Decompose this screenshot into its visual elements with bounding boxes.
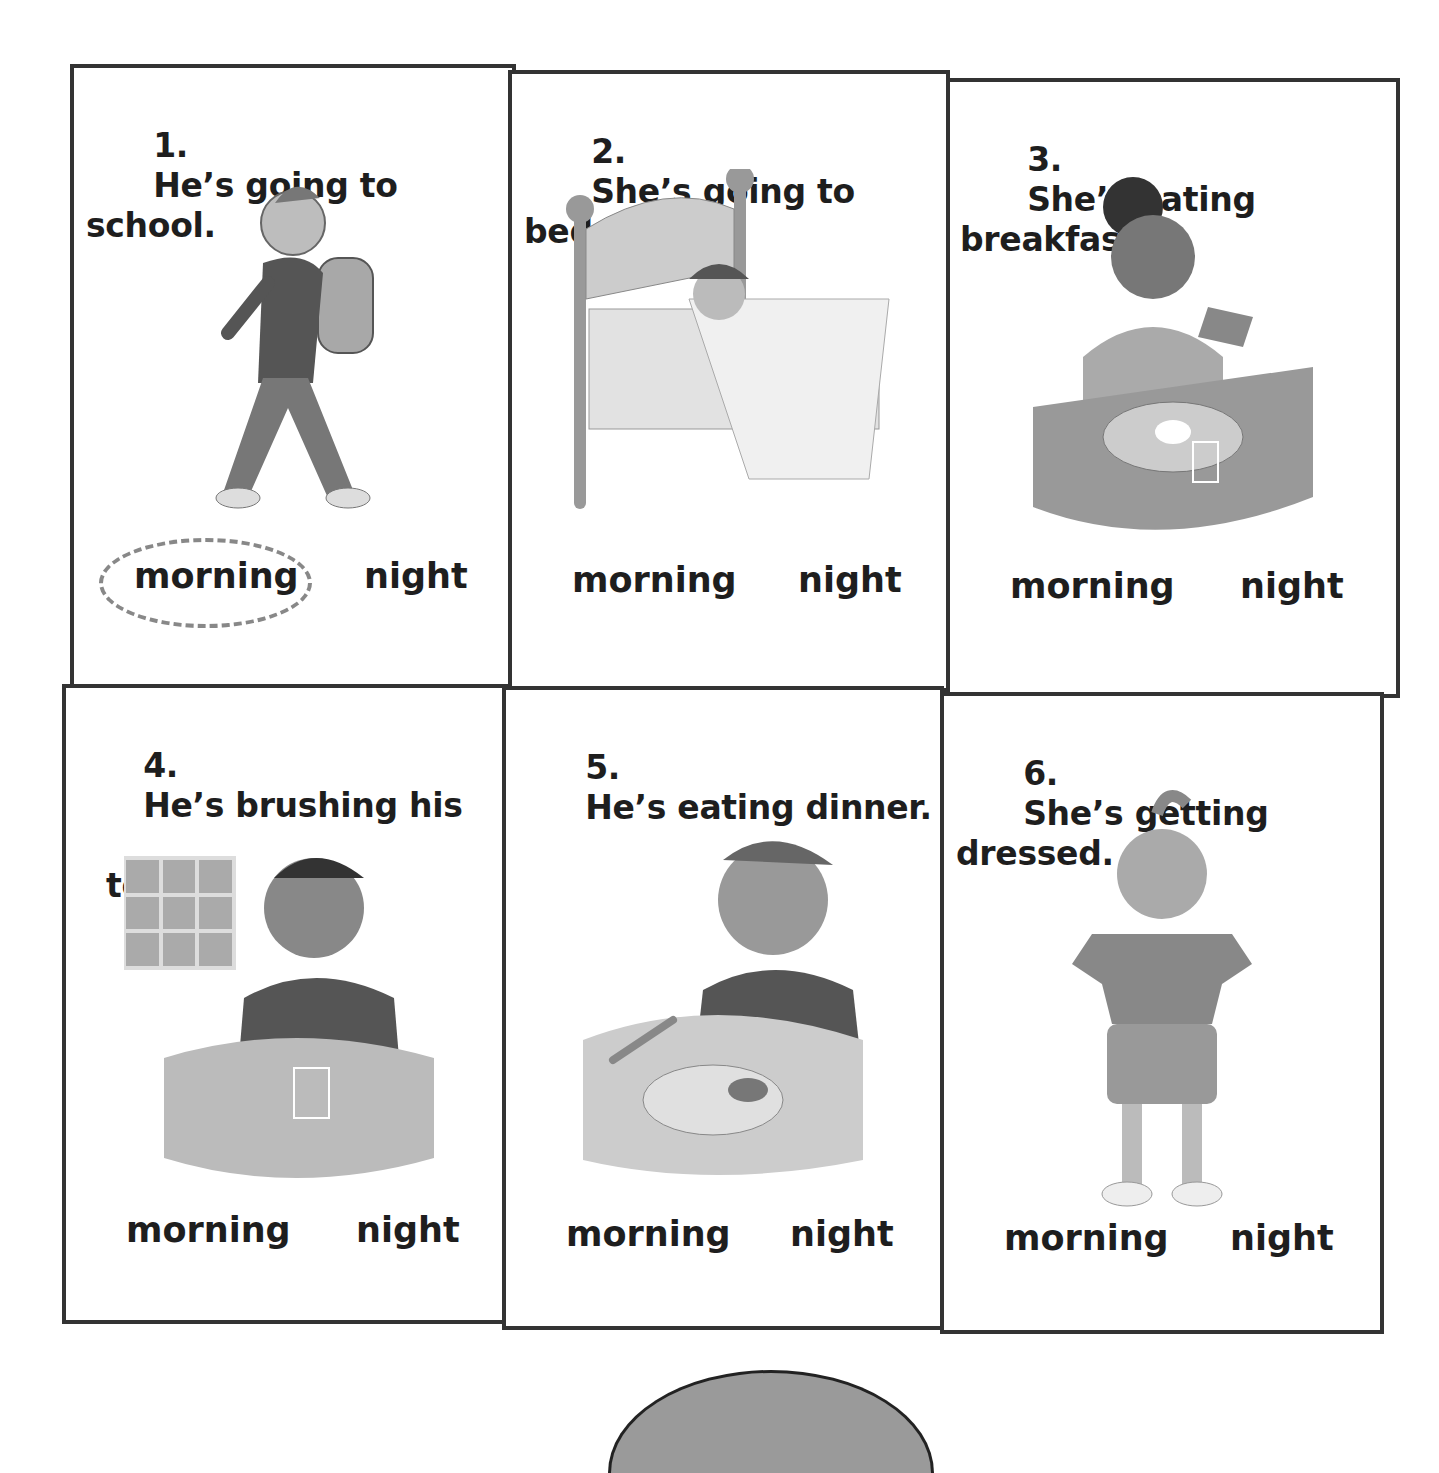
boy-eating-dinner-illustration [563, 820, 883, 1180]
card-number: 1. [153, 126, 188, 165]
option-morning[interactable]: morning [134, 556, 299, 596]
girl-in-bed-illustration [559, 169, 899, 529]
card-number: 3. [1027, 140, 1062, 179]
option-night[interactable]: night [1230, 1218, 1334, 1258]
card-number: 5. [585, 748, 620, 787]
option-night[interactable]: night [356, 1210, 460, 1250]
option-night[interactable]: night [364, 556, 468, 596]
option-morning[interactable]: morning [1010, 566, 1175, 606]
answer-options: morning night [950, 566, 1396, 616]
card-3: 3. She’s eating breakfast. morning night [946, 78, 1400, 698]
answer-options: morning night [74, 556, 512, 606]
boy-walking-illustration [143, 163, 443, 523]
boy-brushing-teeth-illustration [124, 838, 444, 1198]
answer-circle-icon [99, 538, 312, 628]
answer-options: morning night [944, 1218, 1380, 1268]
option-night[interactable]: night [798, 560, 902, 600]
card-5: 5. He’s eating dinner. morning night [502, 686, 944, 1330]
option-night[interactable]: night [790, 1214, 894, 1254]
option-morning[interactable]: morning [1004, 1218, 1169, 1258]
option-morning[interactable]: morning [572, 560, 737, 600]
girl-getting-dressed-illustration [1032, 784, 1292, 1224]
card-1: 1. He’s going to school. morning night [70, 64, 516, 688]
decorative-semicircle [608, 1370, 934, 1473]
card-2: 2. She’s going to bed. morning night [508, 70, 950, 692]
answer-options: morning night [512, 560, 946, 610]
card-sentence: He’s brushing his [143, 786, 462, 825]
girl-eating-breakfast-illustration [1023, 177, 1323, 537]
answer-options: morning night [66, 1210, 502, 1260]
option-morning[interactable]: morning [566, 1214, 731, 1254]
card-number: 4. [143, 746, 178, 785]
worksheet-grid: 1. He’s going to school. morning night 2… [62, 64, 1384, 1328]
card-number: 2. [591, 132, 626, 171]
option-morning[interactable]: morning [126, 1210, 291, 1250]
option-night[interactable]: night [1240, 566, 1344, 606]
card-4: 4. He’s brushing his teeth. morning nigh… [62, 684, 506, 1324]
answer-options: morning night [506, 1214, 940, 1264]
card-6: 6. She’s getting dressed. morning night [940, 692, 1384, 1334]
